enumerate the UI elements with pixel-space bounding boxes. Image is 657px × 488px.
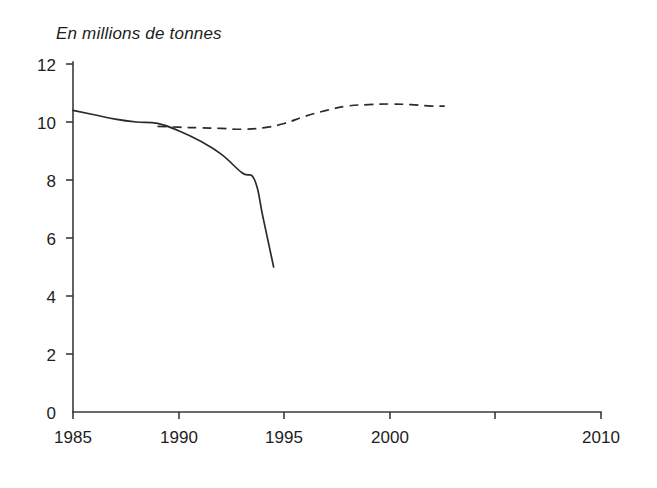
y-tick-label: 10: [37, 114, 56, 133]
y-tick-label: 6: [47, 230, 56, 249]
x-tick-label: 2010: [582, 428, 620, 447]
line-series-solid: [73, 110, 274, 267]
line-series-dashed: [157, 104, 444, 129]
y-axis-tick-labels: 12 10 8 6 4 2 0: [37, 56, 56, 423]
y-tick-label: 8: [47, 172, 56, 191]
x-tick-label: 1995: [265, 428, 303, 447]
y-tick-label: 2: [47, 346, 56, 365]
x-tick-label: 2000: [371, 428, 409, 447]
y-tick-label: 12: [37, 56, 56, 75]
y-tick-marks: [66, 64, 73, 354]
x-tick-label: 1990: [160, 428, 198, 447]
y-tick-label: 0: [47, 404, 56, 423]
y-tick-label: 4: [47, 288, 56, 307]
chart-figure: En millions de tonnes 12 10 8: [0, 0, 657, 488]
chart-plot-area: 12 10 8 6 4 2 0 1985 1990 1995 2000 2010: [0, 0, 657, 488]
x-axis-tick-labels: 1985 1990 1995 2000 2010: [54, 428, 620, 447]
x-tick-label: 1985: [54, 428, 92, 447]
x-tick-marks: [73, 412, 601, 419]
